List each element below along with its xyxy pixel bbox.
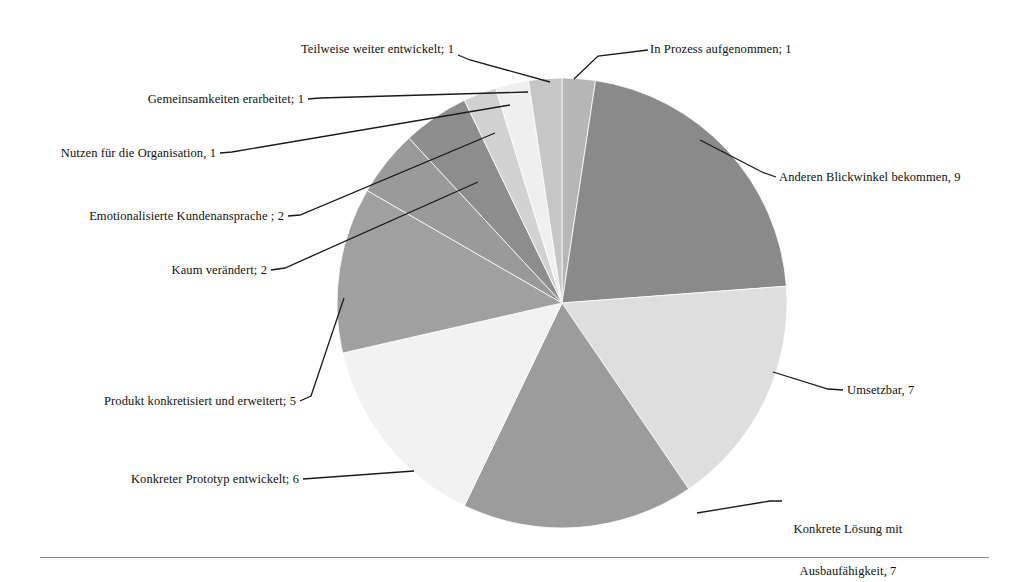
label-anderen-blickwinkel-bekommen: Anderen Blickwinkel bekommen, 9 <box>779 170 961 184</box>
label-nutzen-fuer-die-organisation: Nutzen für die Organisation, 1 <box>0 146 216 160</box>
leader-line-konkreter-prototyp <box>303 471 414 479</box>
label-in-prozess-aufgenommen: In Prozess aufgenommen; 1 <box>650 42 792 56</box>
leader-line-in-prozess <box>574 50 648 79</box>
footer-rule <box>40 557 989 558</box>
leader-line-teilweise-weiter <box>458 55 550 82</box>
label-konkrete-loesung-line-1: Konkrete Lösung mit <box>783 522 913 536</box>
label-konkreter-prototyp-entwickelt: Konkreter Prototyp entwickelt; 6 <box>0 472 299 486</box>
label-teilweise-weiter-entwickelt: Teilweise weiter entwickelt; 1 <box>0 42 454 56</box>
leader-line-umsetzbar <box>773 372 843 390</box>
label-emotionalisierte-kundenansprache: Emotionalisierte Kundenansprache ; 2 <box>0 209 284 223</box>
label-konkrete-loesung-line-2: Ausbaufähigkeit, 7 <box>783 564 913 578</box>
label-umsetzbar: Umsetzbar, 7 <box>847 383 914 397</box>
label-kaum-veraendert: Kaum verändert; 2 <box>0 263 267 277</box>
label-gemeinsamkeiten-erarbeitet: Gemeinsamkeiten erarbeitet; 1 <box>0 92 304 106</box>
pie-slice[interactable] <box>562 81 786 303</box>
label-konkrete-loesung-ausbaufaehigkeit: Konkrete Lösung mit Ausbaufähigkeit, 7 <box>783 494 913 582</box>
label-produkt-konkretisiert-erweitert: Produkt konkretisiert und erweitert; 5 <box>0 394 296 408</box>
pie-slice-group <box>337 78 787 528</box>
leader-line-konkrete-loesung <box>697 501 782 513</box>
